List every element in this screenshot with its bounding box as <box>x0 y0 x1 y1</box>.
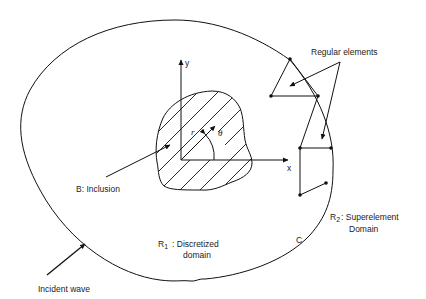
boundary-c-label: C <box>296 235 302 245</box>
r1-label: R1: Discretized <box>158 239 219 250</box>
regular-elements-arrow-1 <box>290 62 340 86</box>
r2-label-line2: Domain <box>349 224 379 234</box>
fem-domain-diagram: y x r θ B: Inclusion Regular elements R2… <box>0 0 426 299</box>
incident-wave-label: Incident wave <box>38 284 90 294</box>
regular-elements <box>269 57 333 197</box>
radius-label: r <box>191 127 195 137</box>
incident-wave-arrow <box>47 244 85 275</box>
theta-label: θ <box>218 128 223 138</box>
inclusion-pointer-arrow <box>106 145 170 177</box>
r2-label: R2: Superelement <box>330 212 399 223</box>
r1-label-line2: domain <box>183 250 211 260</box>
regular-elements-arrow-2 <box>322 62 340 139</box>
y-axis-label: y <box>185 58 190 68</box>
inclusion-region <box>120 10 340 230</box>
inclusion-label: B: Inclusion <box>76 184 120 194</box>
regular-elements-label: Regular elements <box>311 47 378 57</box>
x-axis-label: x <box>287 163 292 173</box>
